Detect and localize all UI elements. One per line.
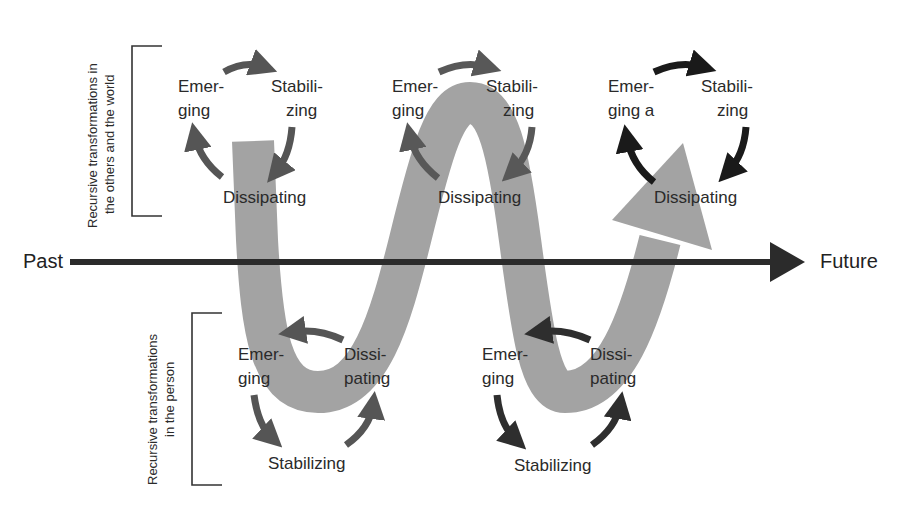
- dissipating-label: Dissi-: [590, 345, 633, 364]
- arrow-emerging-to-stabilizing: [654, 64, 703, 72]
- stabilizing-label: Stabili-: [701, 77, 753, 96]
- emerging-label-cont: ging: [178, 101, 210, 120]
- dissipating-label: Dissipating: [223, 188, 306, 207]
- dissipating-label: Dissipating: [438, 188, 521, 207]
- arrow-dissipating-to-emerging: [195, 136, 222, 177]
- stabilizing-label: Stabilizing: [514, 456, 592, 475]
- emerging-label: Emer-: [392, 77, 438, 96]
- arrow-emerging-to-stabilizing: [439, 64, 488, 72]
- arrow-dissipating-to-emerging: [627, 138, 654, 182]
- emerging-label: Emer-: [238, 345, 284, 364]
- emerging-label: Emer-: [178, 77, 224, 96]
- recursive-transformations-diagram: Past Future Recursive transformations in…: [0, 0, 912, 513]
- arrow-emerging-to-stabilizing: [497, 395, 516, 440]
- arrow-stabilizing-to-dissipating: [592, 405, 620, 445]
- past-label: Past: [23, 250, 63, 272]
- stabilizing-label: Stabili-: [271, 77, 323, 96]
- dissipating-label: Dissipating: [654, 188, 737, 207]
- arrow-stabilizing-to-dissipating: [728, 127, 746, 172]
- emerging-label: Emer-: [608, 77, 654, 96]
- stabilizing-label-cont: zing: [717, 101, 748, 120]
- top-side-label-line1: Recursive transformations in: [85, 63, 100, 228]
- bottom-side-label-line1: Recursive transformations: [145, 334, 160, 485]
- top-side-label-group: Recursive transformations in the others …: [85, 46, 162, 228]
- emerging-label-cont: ging a: [608, 101, 655, 120]
- timeline-arrowhead: [770, 242, 805, 282]
- top-side-label-line2: the others and the world: [102, 75, 117, 214]
- dissipating-label: Dissi-: [344, 345, 387, 364]
- dissipating-label-cont: pating: [590, 369, 636, 388]
- emerging-label-cont: ging: [482, 369, 514, 388]
- arrow-emerging-to-stabilizing: [224, 64, 264, 72]
- arrow-dissipating-to-emerging: [292, 331, 343, 340]
- arrow-emerging-to-stabilizing: [254, 395, 272, 438]
- bottom-side-label-group: Recursive transformations in the person: [145, 313, 222, 485]
- emerging-label-cont: ging: [238, 369, 270, 388]
- emerging-label: Emer-: [482, 345, 528, 364]
- future-label: Future: [820, 250, 878, 272]
- dissipating-label-cont: pating: [344, 369, 390, 388]
- stabilizing-label: Stabilizing: [268, 454, 346, 473]
- stabilizing-label-cont: zing: [286, 101, 317, 120]
- stabilizing-label-cont: zing: [503, 101, 534, 120]
- bottom-bracket: [192, 313, 222, 485]
- arrow-stabilizing-to-dissipating: [276, 127, 292, 172]
- arrow-stabilizing-to-dissipating: [346, 405, 373, 445]
- bottom-side-label-line2: in the person: [162, 362, 177, 437]
- emerging-label-cont: ging: [392, 101, 424, 120]
- stabilizing-label: Stabili-: [486, 77, 538, 96]
- top-bracket: [132, 46, 162, 216]
- timeline: Past Future: [23, 242, 878, 282]
